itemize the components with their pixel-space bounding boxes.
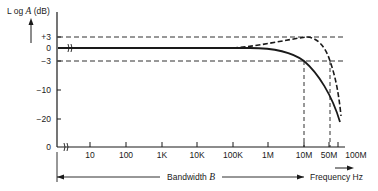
svg-text:100K: 100K xyxy=(223,150,243,160)
svg-text:0: 0 xyxy=(46,43,51,53)
svg-text:−3: −3 xyxy=(41,56,51,66)
solid-response-curve xyxy=(58,48,340,122)
svg-text:10M: 10M xyxy=(296,150,313,160)
x-axis-label: Frequency Hz xyxy=(310,172,363,182)
x-ticks xyxy=(90,142,338,147)
bandwidth-label: Bandwidth B xyxy=(167,172,215,182)
svg-text:0: 0 xyxy=(46,142,51,152)
x-tick-labels: 10 100 1K 10K 100K 1M 10M 50M 100M xyxy=(85,150,366,160)
svg-text:−10: −10 xyxy=(37,85,52,95)
svg-text:10K: 10K xyxy=(189,150,204,160)
svg-text:50M: 50M xyxy=(321,150,338,160)
frequency-arrow-icon xyxy=(335,166,354,171)
y-axis-label: L og A (dB) xyxy=(7,6,50,16)
frequency-response-chart: L og A (dB) +3 0 −3 −10 −20 0 xyxy=(0,0,378,191)
svg-text:100: 100 xyxy=(119,150,133,160)
svg-text:10: 10 xyxy=(85,150,95,160)
svg-text:1K: 1K xyxy=(157,150,168,160)
reference-lines xyxy=(58,37,343,61)
svg-text:−20: −20 xyxy=(37,114,52,124)
svg-text:1M: 1M xyxy=(262,150,274,160)
y-axis-arrow-icon xyxy=(29,18,34,43)
svg-text:+3: +3 xyxy=(41,32,51,42)
svg-text:100M: 100M xyxy=(345,150,366,160)
